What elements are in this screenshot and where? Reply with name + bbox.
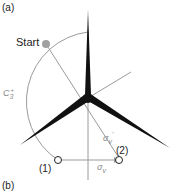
blade-lower-right bbox=[88, 95, 170, 148]
point-2-marker bbox=[116, 157, 123, 164]
sigma-v-prime-label: σv' bbox=[103, 131, 113, 145]
blade-lower-left bbox=[20, 95, 89, 145]
mirror-plane-line bbox=[88, 72, 131, 98]
hub bbox=[83, 93, 93, 103]
panel-label-b: (b) bbox=[2, 181, 14, 191]
sigma-prime: ' bbox=[112, 131, 113, 138]
start-dot bbox=[42, 40, 50, 48]
point-2-label: (2) bbox=[116, 146, 128, 156]
blade-up bbox=[85, 10, 91, 95]
sigma-subscript: v bbox=[108, 138, 112, 145]
sigma-v-label: σv bbox=[97, 163, 106, 174]
start-label: Start bbox=[16, 37, 39, 48]
point-1-label: (1) bbox=[39, 164, 51, 174]
c3-superscript: + bbox=[10, 87, 14, 93]
c3-subscript: 3 bbox=[10, 93, 14, 100]
sigma-subscript: v bbox=[102, 167, 106, 174]
diagram-canvas bbox=[0, 0, 175, 193]
point-1-marker bbox=[55, 157, 62, 164]
c3-label: C3+ bbox=[3, 87, 14, 100]
